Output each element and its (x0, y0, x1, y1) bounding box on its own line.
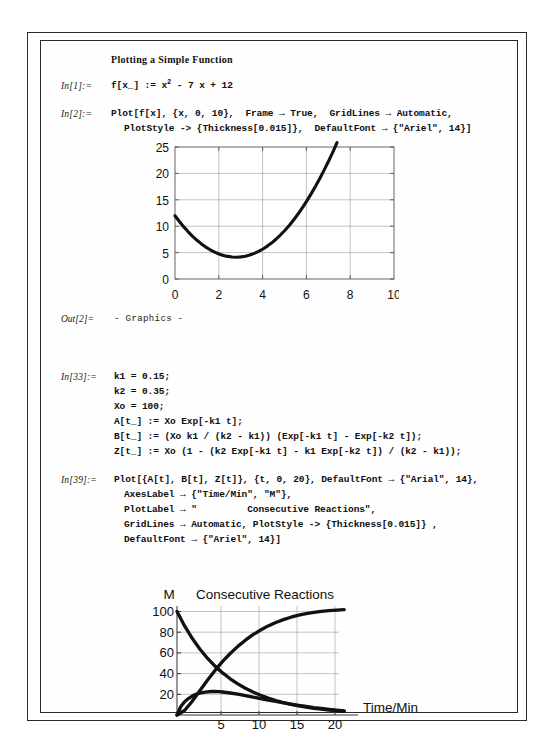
parabola-ytick-25: 25 (156, 141, 170, 155)
reactions-y-axis-label: M (163, 587, 174, 602)
parabola-ytick-0: 0 (162, 273, 169, 287)
code-in-33-line-1: k1 = 0.15; (114, 371, 170, 382)
page-title: Plotting a Simple Function (111, 54, 233, 65)
parabola-xtick-4: 4 (259, 288, 266, 302)
reactions-plot-title: Consecutive Reactions (196, 587, 334, 602)
parabola-x-tick-labels: 0 2 4 6 8 10 (172, 288, 399, 302)
scanned-notebook-page: Plotting a Simple Function In[1]:= f[x_]… (0, 0, 555, 755)
code-in-33-line-5: B[t_] := (Xo k1 / (k2 - k1)) (Exp[-k1 t]… (114, 431, 422, 442)
code-in-1-part-a: f[x_] := x (111, 80, 167, 91)
parabola-ytick-10: 10 (156, 220, 170, 234)
parabola-xtick-6: 6 (303, 288, 310, 302)
parabola-ytick-5: 5 (162, 247, 169, 261)
code-in-39-line-3: PlotLabel → " Consecutive Reactions", (124, 504, 376, 515)
parabola-y-tick-labels: 25 20 15 10 5 0 (156, 141, 170, 287)
consecutive-reactions-plot-svg: Consecutive Reactions M Time/Min 100 80 … (96, 546, 426, 731)
parabola-xtick-2: 2 (215, 288, 222, 302)
reactions-ytick-40: 40 (160, 666, 174, 681)
parabola-plot-svg: 25 20 15 10 5 0 0 2 4 6 8 10 (99, 137, 399, 312)
out-value-2: - Graphics - (114, 314, 184, 324)
reactions-xtick-15: 15 (290, 717, 304, 731)
parabola-ytick-15: 15 (156, 194, 170, 208)
parabola-ytick-20: 20 (156, 167, 170, 181)
consecutive-reactions-plot: Consecutive Reactions M Time/Min 100 80 … (96, 546, 426, 731)
code-in-1-part-b: - 7 x + 12 (171, 80, 233, 91)
reactions-curve-A (177, 612, 344, 712)
code-in-33-line-4: A[t_] := Xo Exp[-k1 t]; (114, 416, 243, 427)
code-in-39-line-4: GridLines → Automatic, PlotStyle -> {Thi… (124, 519, 438, 530)
code-in-33-line-6: Z[t_] := Xo (1 - (k2 Exp[-k1 t] - k1 Exp… (114, 446, 461, 457)
code-in-2-line-2: PlotStyle -> {Thickness[0.015]}, Default… (124, 123, 471, 134)
reactions-x-tick-labels: 5 10 15 20 (217, 717, 342, 731)
reactions-ytick-20: 20 (160, 687, 174, 702)
code-in-39-line-5: DefaultFont → {"Ariel", 14}] (124, 534, 281, 545)
reactions-xtick-5: 5 (217, 717, 224, 731)
reactions-axis-ticks (177, 612, 335, 716)
reactions-x-axis-label: Time/Min (363, 700, 418, 715)
code-in-39-line-2: AxesLabel → {"Time/Min", "M"}, (124, 489, 292, 500)
reactions-ytick-100: 100 (152, 604, 174, 619)
page-inner-border: Plotting a Simple Function In[1]:= f[x_]… (40, 40, 518, 713)
reactions-y-tick-labels: 100 80 60 40 20 (152, 604, 174, 702)
in-prompt-33: In[33]:= (61, 372, 97, 382)
reactions-ytick-80: 80 (160, 625, 174, 640)
code-in-1: f[x_] := x2 - 7 x + 12 (111, 80, 233, 91)
code-in-33-line-2: k2 = 0.35; (114, 386, 170, 397)
parabola-frame (175, 147, 394, 279)
code-in-39-line-1: Plot[{A[t], B[t], Z[t]}, {t, 0, 20}, Def… (114, 474, 478, 485)
reactions-xtick-10: 10 (252, 717, 266, 731)
parabola-plot: 25 20 15 10 5 0 0 2 4 6 8 10 (99, 137, 399, 312)
parabola-xtick-8: 8 (347, 288, 354, 302)
code-in-2-line-1: Plot[f[x], {x, 0, 10}, Frame → True, Gri… (111, 108, 453, 119)
reactions-xtick-20: 20 (328, 717, 342, 731)
code-in-33-line-3: Xo = 100; (114, 401, 164, 412)
in-prompt-2: In[2]:= (61, 109, 92, 119)
out-prompt-2: Out[2]= (61, 314, 94, 324)
parabola-xtick-0: 0 (172, 288, 179, 302)
reactions-ytick-60: 60 (160, 645, 174, 660)
in-prompt-1: In[1]:= (61, 81, 92, 91)
in-prompt-39: In[39]:= (61, 475, 97, 485)
parabola-xtick-10: 10 (387, 288, 399, 302)
